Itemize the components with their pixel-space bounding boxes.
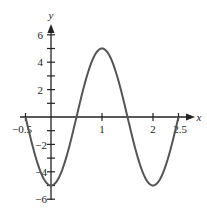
y-tick-label: 6: [38, 29, 44, 41]
y-tick-label: 4: [38, 56, 44, 68]
chart: 6 4 2 −2 −4 −6 −0.5 1 2 2.5 x y: [0, 0, 207, 213]
y-axis-arrow-icon: [48, 24, 55, 33]
y-tick-label: −2: [35, 139, 47, 151]
y-tick-label: 2: [38, 84, 44, 96]
x-axis-label: x: [196, 111, 202, 123]
x-tick-label: 1: [99, 123, 105, 135]
y-tick-label: −6: [35, 193, 47, 205]
y-axis-label: y: [48, 9, 54, 21]
x-axis-arrow-icon: [186, 114, 195, 121]
x-tick-label: 2: [150, 123, 156, 135]
